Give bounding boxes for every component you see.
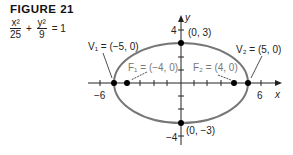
v1-pointer-arrow xyxy=(103,53,112,78)
f1-pointer-arrow xyxy=(131,72,147,80)
bottom-point-label: (0, −3) xyxy=(186,125,215,136)
y-tick-min-label: −4 xyxy=(166,132,178,143)
x-tick-max-label: 6 xyxy=(257,90,263,101)
f2-pointer-arrow xyxy=(218,75,231,80)
bottom-point xyxy=(178,120,184,126)
focus-f1-point xyxy=(124,80,130,86)
v2-pointer-arrow xyxy=(251,56,262,78)
focus-f2-point xyxy=(231,80,237,86)
x-axis-label: x xyxy=(274,89,281,100)
vertex-v1-point xyxy=(111,80,117,86)
v2-label: V₂ = (5, 0) xyxy=(236,44,281,55)
y-axis-label: y xyxy=(184,12,191,23)
x-axis xyxy=(88,80,282,86)
ellipse-diagram: y x −6 6 4 −4 (0, 3) (0, −3) V₁ = (−5, 0… xyxy=(0,0,293,155)
x-tick-min-label: −6 xyxy=(94,90,106,101)
vertex-v2-point xyxy=(245,80,251,86)
v1-label: V₁ = (−5, 0) xyxy=(88,41,139,52)
y-tick-max-label: 4 xyxy=(171,25,177,36)
top-point-label: (0, 3) xyxy=(188,27,211,38)
top-point xyxy=(178,40,184,46)
f2-label: F₂ = (4, 0) xyxy=(193,62,238,73)
f1-label: F₁ = (−4, 0) xyxy=(128,62,178,73)
